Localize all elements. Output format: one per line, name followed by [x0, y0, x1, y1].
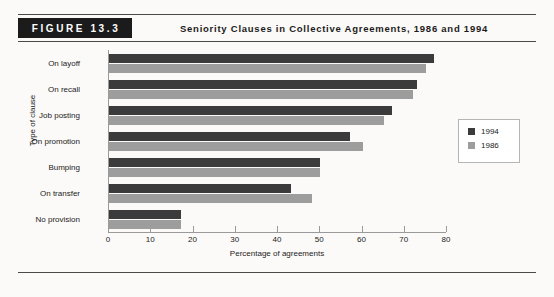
y-tick-label: On recall	[48, 85, 80, 94]
chart-legend: 1994 1986	[458, 119, 520, 163]
bar-1986	[109, 116, 384, 125]
y-tick-label: On transfer	[40, 189, 80, 198]
figure-page: FIGURE 13.3 Seniority Clauses in Collect…	[0, 0, 554, 297]
bar-1994	[109, 184, 291, 193]
figure-title: Seniority Clauses in Collective Agreemen…	[180, 23, 488, 34]
legend-item-1994: 1994	[468, 127, 519, 136]
x-tick	[362, 226, 363, 232]
x-tick-label: 10	[146, 235, 155, 244]
x-tick-label: 80	[442, 235, 451, 244]
legend-item-1986: 1986	[468, 141, 519, 150]
x-tick	[319, 226, 320, 232]
x-tick-label: 0	[106, 235, 110, 244]
bar-1994	[109, 54, 434, 63]
bar-1986	[109, 194, 312, 203]
bar-1986	[109, 90, 413, 99]
y-tick-label: No provision	[36, 215, 80, 224]
legend-label-1994: 1994	[481, 127, 499, 136]
bar-1994	[109, 132, 350, 141]
bar-1994	[109, 158, 320, 167]
x-tick-label: 60	[357, 235, 366, 244]
y-tick-label: Bumping	[48, 163, 80, 172]
x-axis-title: Percentage of agreements	[108, 249, 446, 258]
figure-header: FIGURE 13.3 Seniority Clauses in Collect…	[18, 18, 536, 38]
y-tick-label: On promotion	[32, 137, 80, 146]
bar-1986	[109, 220, 181, 229]
y-axis-title: Type of clause	[28, 91, 37, 151]
legend-swatch-icon-1986	[468, 142, 475, 149]
legend-swatch-icon-1994	[468, 128, 475, 135]
bar-1994	[109, 80, 417, 89]
x-axis-line	[108, 232, 446, 233]
x-tick	[446, 226, 447, 232]
header-rule-top	[18, 14, 536, 15]
x-tick	[404, 226, 405, 232]
y-tick-label: Job posting	[39, 111, 80, 120]
legend-label-1986: 1986	[481, 141, 499, 150]
bar-1986	[109, 64, 426, 73]
x-tick-label: 70	[399, 235, 408, 244]
bar-1994	[109, 106, 392, 115]
bar-1994	[109, 210, 181, 219]
x-tick	[277, 226, 278, 232]
x-tick-label: 30	[230, 235, 239, 244]
bar-1986	[109, 168, 320, 177]
figure-number-tag: FIGURE 13.3	[18, 18, 132, 38]
x-tick-label: 20	[188, 235, 197, 244]
figure-title-container: Seniority Clauses in Collective Agreemen…	[132, 18, 536, 38]
x-tick	[193, 226, 194, 232]
bar-1986	[109, 142, 363, 151]
x-tick-label: 50	[315, 235, 324, 244]
x-tick-label: 40	[273, 235, 282, 244]
footer-rule	[18, 272, 536, 273]
bar-chart: 01020304050607080 On layoffOn recallJob …	[18, 44, 536, 268]
header-rule-bottom	[18, 41, 536, 42]
y-tick-label: On layoff	[48, 59, 80, 68]
x-tick	[235, 226, 236, 232]
